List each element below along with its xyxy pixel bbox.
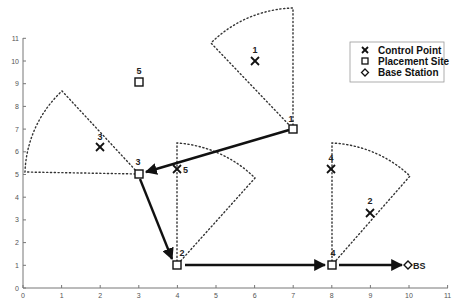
y-tick-4: 4	[15, 194, 19, 201]
y-tick-8: 8	[15, 103, 19, 110]
control-point-marker-2	[366, 209, 374, 217]
y-tick-11: 11	[12, 35, 19, 42]
arrow-ps3-to-ps2	[140, 179, 172, 259]
placement-site-label-5: 5	[136, 66, 141, 76]
placement-site-label-3: 3	[135, 157, 140, 167]
y-tick-2: 2	[15, 239, 19, 246]
sector-ps1	[211, 8, 293, 129]
x-tick-8: 8	[330, 292, 334, 299]
x-tick-11: 11	[444, 292, 451, 299]
control-point-marker-1	[251, 57, 259, 65]
legend-base-station: Base Station	[378, 67, 439, 78]
base-station-marker	[404, 261, 412, 269]
y-tick-7: 7	[15, 126, 19, 133]
control-point-marker-3	[96, 143, 104, 151]
placement-site-label-4: 4	[330, 248, 335, 258]
legend: Control Point Placement Site Base Statio…	[350, 42, 450, 82]
placement-site-marker-2	[173, 261, 181, 269]
sector-ps3	[25, 91, 139, 174]
base-station-label: BS	[413, 261, 426, 271]
x-tick-9: 9	[368, 292, 372, 299]
x-tick-10: 10	[405, 292, 413, 299]
y-tick-9: 9	[15, 80, 19, 87]
x-tick-0: 0	[21, 292, 25, 299]
placement-site-marker-5	[135, 78, 143, 86]
y-tick-5: 5	[15, 171, 19, 178]
control-point-label-3: 3	[97, 132, 102, 142]
control-point-label-5: 5	[183, 165, 188, 175]
placement-site-marker-1	[289, 125, 297, 133]
placement-site-marker-4	[328, 261, 336, 269]
legend-placement-site: Placement Site	[378, 56, 450, 67]
sector-ps2	[177, 143, 255, 265]
x-tick-5: 5	[214, 292, 218, 299]
placement-site-label-2: 2	[179, 248, 184, 258]
x-tick-2: 2	[98, 292, 102, 299]
y-axis-ticks: 0 1 2 3 4 5 6 7 8 9 10 11	[11, 35, 26, 292]
y-tick-1: 1	[15, 262, 19, 269]
y-tick-10: 10	[11, 58, 19, 65]
x-tick-3: 3	[137, 292, 141, 299]
control-point-label-4: 4	[328, 153, 333, 163]
legend-control-point: Control Point	[378, 45, 442, 56]
placement-site-label-1: 1	[288, 114, 293, 124]
route-arrows	[140, 130, 402, 265]
legend-square-icon	[362, 58, 368, 64]
y-tick-6: 6	[15, 148, 19, 155]
control-point-marker-4	[327, 165, 335, 173]
arrow-ps1-to-ps3	[146, 130, 289, 172]
x-axis-ticks: 0 1 2 3 4 5 6 7 8 9 10 11	[21, 285, 451, 299]
x-tick-4: 4	[175, 292, 179, 299]
placement-site-marker-3	[135, 170, 143, 178]
control-point-label-1: 1	[252, 45, 257, 55]
y-tick-3: 3	[15, 216, 19, 223]
x-tick-1: 1	[60, 292, 64, 299]
x-tick-6: 6	[253, 292, 257, 299]
x-tick-7: 7	[291, 292, 295, 299]
y-tick-0: 0	[15, 285, 19, 292]
control-point-label-2: 2	[367, 196, 372, 206]
base-station: BS	[404, 261, 426, 271]
diagram-canvas: 0 1 2 3 4 5 6 7 8 9 10 11 0 1 2 3 4 5 6 …	[0, 0, 462, 304]
